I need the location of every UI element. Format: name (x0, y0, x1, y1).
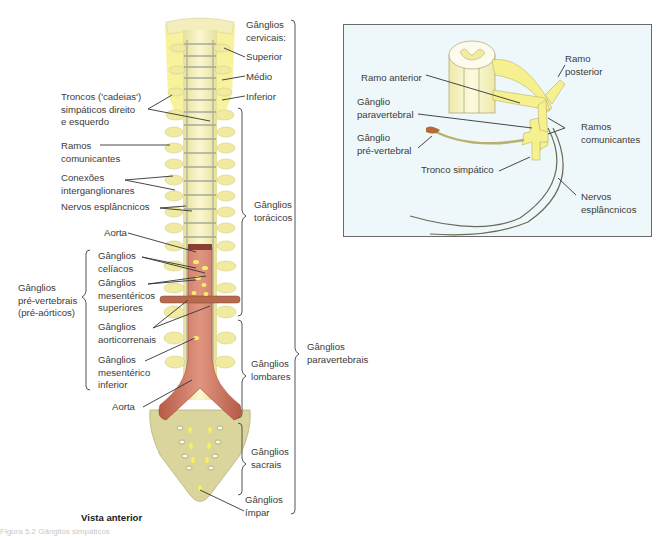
inset-label-ramos-comunicantes: Ramos comunicantes (581, 121, 640, 146)
inset-label-tronco-simpatico: Tronco simpático (421, 164, 494, 177)
inset-illustration (0, 0, 669, 540)
figure-caption: Figura 5.2 Gânglios simpáticos (0, 527, 110, 536)
spinal-cord-segment (449, 41, 495, 113)
inset-label-nervos-esplancnicos: Nervos esplâncnicos (581, 191, 636, 216)
inset-label-ramo-posterior: Ramo posterior (565, 53, 602, 78)
inset-label-ramo-anterior: Ramo anterior (361, 72, 422, 85)
inset-label-ganglio-paravertebral: Gânglio paravertebral (357, 96, 414, 121)
inset-label-ganglio-pre-vertebral: Gânglio pré-vertebral (357, 132, 411, 157)
